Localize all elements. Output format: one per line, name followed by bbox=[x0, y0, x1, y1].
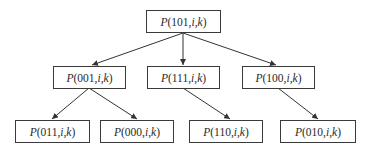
code-label: 001 bbox=[77, 72, 94, 84]
edge-101-001 bbox=[92, 33, 183, 65]
code-label: 100 bbox=[266, 72, 283, 84]
var-i: i bbox=[191, 72, 194, 84]
node-p101: P(101,i,k) bbox=[146, 10, 221, 33]
var-k: k bbox=[151, 126, 156, 138]
edge-001-011 bbox=[52, 88, 89, 119]
code-label: 110 bbox=[214, 126, 231, 138]
code-label: 111 bbox=[172, 72, 188, 84]
var-k: k bbox=[198, 16, 203, 28]
fn-label: P bbox=[66, 72, 73, 84]
var-k: k bbox=[66, 126, 71, 138]
var-i: i bbox=[97, 72, 100, 84]
var-k: k bbox=[104, 72, 109, 84]
code-label: 011 bbox=[41, 126, 58, 138]
var-i: i bbox=[60, 126, 63, 138]
var-k: k bbox=[293, 72, 298, 84]
node-p111: P(111,i,k) bbox=[147, 66, 220, 89]
fn-label: P bbox=[161, 72, 168, 84]
fn-label: P bbox=[160, 16, 167, 28]
edge-101-100 bbox=[183, 33, 276, 65]
node-p110: P(110,i,k) bbox=[189, 120, 263, 143]
var-i: i bbox=[326, 126, 329, 138]
fn-label: P bbox=[295, 126, 302, 138]
fn-label: P bbox=[203, 126, 210, 138]
node-p010: P(010,i,k) bbox=[280, 120, 356, 143]
code-label: 000 bbox=[125, 126, 142, 138]
fn-label: P bbox=[30, 126, 37, 138]
node-p001: P(001,i,k) bbox=[53, 66, 126, 89]
var-i: i bbox=[191, 16, 194, 28]
edge-100-010 bbox=[278, 88, 318, 119]
var-k: k bbox=[240, 126, 245, 138]
node-p011: P(011,i,k) bbox=[15, 120, 90, 143]
var-i: i bbox=[145, 126, 148, 138]
node-p000: P(000,i,k) bbox=[100, 120, 174, 143]
var-k: k bbox=[197, 72, 202, 84]
code-label: 101 bbox=[171, 16, 188, 28]
var-i: i bbox=[234, 126, 237, 138]
edge-001-000 bbox=[89, 88, 137, 119]
var-k: k bbox=[332, 126, 337, 138]
node-p100: P(100,i,k) bbox=[242, 66, 315, 89]
fn-label: P bbox=[114, 126, 121, 138]
var-i: i bbox=[286, 72, 289, 84]
edge-111-110 bbox=[183, 88, 230, 119]
fn-label: P bbox=[255, 72, 262, 84]
code-label: 010 bbox=[306, 126, 323, 138]
